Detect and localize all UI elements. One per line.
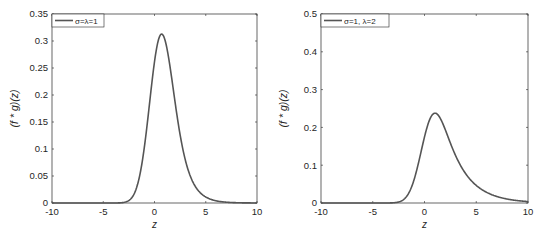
y-axis-label: (f * g)(z) — [8, 90, 20, 128]
y-tick-label: 0 — [312, 197, 317, 208]
x-tick-label: -5 — [369, 206, 377, 217]
y-tick-label: 0.25 — [30, 62, 49, 73]
x-tick-label: 0 — [422, 206, 427, 217]
y-tick-label: 0.3 — [35, 35, 48, 46]
legend: σ=λ=1 — [52, 14, 104, 27]
chart-right-svg: -10-5051000.10.20.30.40.5z(f * g)(z)σ=1,… — [273, 0, 547, 236]
y-tick-label: 0.5 — [304, 8, 317, 19]
x-tick-label: -5 — [99, 206, 107, 217]
y-tick-label: 0.1 — [304, 160, 317, 171]
x-tick-label: 5 — [474, 206, 479, 217]
y-axis-label: (f * g)(z) — [277, 90, 289, 128]
y-tick-label: 0.1 — [35, 143, 48, 154]
x-tick-label: 0 — [152, 206, 157, 217]
x-tick-label: 10 — [523, 206, 534, 217]
x-axis-label: z — [151, 219, 157, 230]
y-tick-label: 0.2 — [35, 89, 48, 100]
y-tick-label: 0.35 — [30, 8, 49, 19]
y-tick-label: 0.05 — [30, 170, 49, 181]
chart-right: -10-5051000.10.20.30.40.5z(f * g)(z)σ=1,… — [273, 0, 547, 236]
axes-box — [321, 14, 528, 203]
x-tick-label: 10 — [252, 206, 263, 217]
y-tick-label: 0 — [43, 197, 48, 208]
x-axis-label: z — [421, 219, 427, 230]
y-tick-label: 0.3 — [304, 84, 317, 95]
axes-box — [52, 14, 257, 203]
legend-label: σ=λ=1 — [75, 17, 98, 26]
y-tick-label: 0.15 — [30, 116, 49, 127]
legend: σ=1, λ=2 — [321, 14, 389, 27]
legend-label: σ=1, λ=2 — [344, 17, 376, 26]
y-tick-label: 0.2 — [304, 122, 317, 133]
chart-left: -10-5051000.050.10.150.20.250.30.35z(f *… — [0, 0, 273, 236]
y-tick-label: 0.4 — [304, 46, 317, 57]
x-tick-label: 5 — [203, 206, 208, 217]
chart-left-svg: -10-5051000.050.10.150.20.250.30.35z(f *… — [0, 0, 273, 236]
